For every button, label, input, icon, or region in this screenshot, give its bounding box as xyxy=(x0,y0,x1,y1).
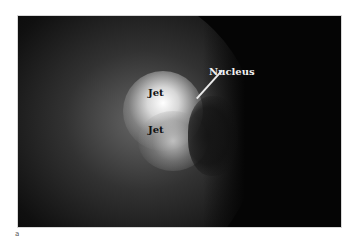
nucleus-body xyxy=(188,96,238,176)
jet-lower-label: Jet xyxy=(148,124,164,135)
comet-photo xyxy=(17,15,342,228)
jet-upper-label: Jet xyxy=(148,87,164,98)
panel-letter: a xyxy=(15,230,19,238)
